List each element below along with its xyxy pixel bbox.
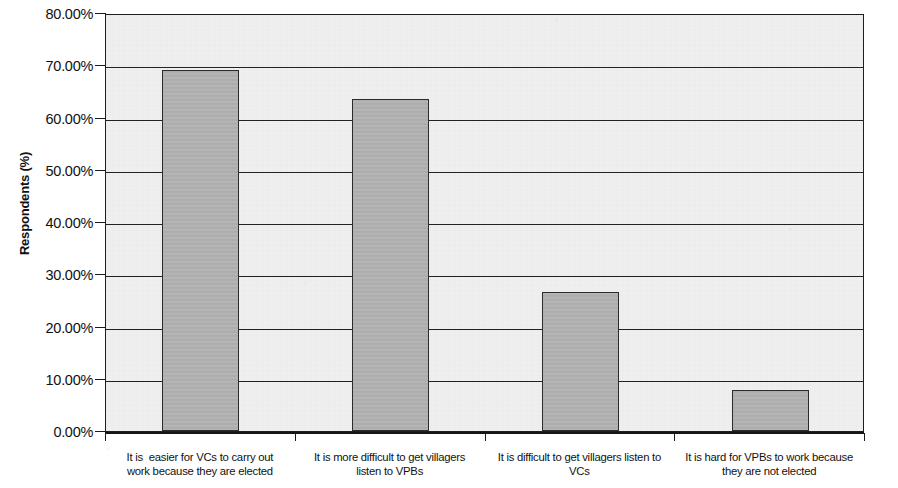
x-axis-category-label-line: listen to VPBs bbox=[288, 464, 492, 478]
x-axis-tick-mark bbox=[105, 433, 106, 441]
x-axis-tick-mark bbox=[864, 433, 865, 441]
y-axis-tick-label: 80.00% bbox=[0, 7, 93, 22]
bar bbox=[162, 70, 239, 431]
x-axis-category-label-line: It is more difficult to get villagers bbox=[288, 450, 492, 464]
x-axis-category-label-line: It is easier for VCs to carry out bbox=[98, 450, 302, 464]
x-axis-tick-mark bbox=[674, 433, 675, 441]
bar bbox=[352, 99, 429, 431]
y-axis-tick-label: 40.00% bbox=[0, 216, 93, 231]
bar bbox=[542, 292, 619, 431]
x-axis-category-label-line: It is hard for VPBs to work because bbox=[667, 450, 871, 464]
y-axis-tick-label: 30.00% bbox=[0, 268, 93, 283]
x-axis-tick-mark bbox=[295, 433, 296, 441]
plot-area bbox=[105, 14, 864, 432]
gridline bbox=[106, 67, 863, 68]
x-axis-category-label: It is easier for VCs to carry outwork be… bbox=[98, 450, 302, 478]
x-axis-category-label: It is difficult to get villagers listen … bbox=[478, 450, 682, 478]
bar-chart: Respondents (%) 0.00%10.00%20.00%30.00%4… bbox=[0, 0, 898, 488]
y-axis-tick-label: 50.00% bbox=[0, 164, 93, 179]
y-axis-tick-label: 60.00% bbox=[0, 111, 93, 126]
x-axis-category-label-line: VCs bbox=[478, 464, 682, 478]
y-axis-tick-label: 0.00% bbox=[0, 425, 93, 440]
x-axis-tick-mark bbox=[485, 433, 486, 441]
y-axis-tick-labels: 0.00%10.00%20.00%30.00%40.00%50.00%60.00… bbox=[0, 0, 93, 488]
x-axis-tick-labels: It is easier for VCs to carry outwork be… bbox=[105, 450, 864, 488]
y-axis-tick-label: 70.00% bbox=[0, 59, 93, 74]
x-axis-category-label: It is more difficult to get villagerslis… bbox=[288, 450, 492, 478]
y-axis-tick-label: 20.00% bbox=[0, 320, 93, 335]
x-axis-category-label-line: work because they are elected bbox=[98, 464, 302, 478]
x-axis-category-label-line: they are not elected bbox=[667, 464, 871, 478]
x-axis-category-label-line: It is difficult to get villagers listen … bbox=[478, 450, 682, 464]
y-axis-tick-label: 10.00% bbox=[0, 373, 93, 388]
bar bbox=[732, 390, 809, 431]
x-axis-category-label: It is hard for VPBs to work becausethey … bbox=[667, 450, 871, 478]
